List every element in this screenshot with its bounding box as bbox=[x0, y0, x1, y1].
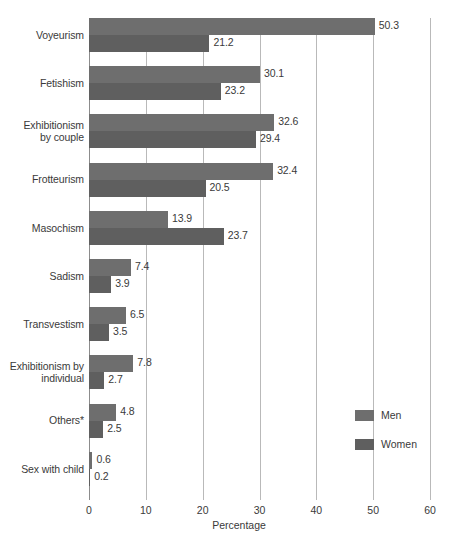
bar-men bbox=[89, 114, 274, 131]
bar-value-label: 23.2 bbox=[225, 82, 245, 99]
bar-women bbox=[89, 180, 206, 197]
category-label: Sadism bbox=[0, 270, 84, 283]
bar-men bbox=[89, 355, 133, 372]
legend-swatch bbox=[355, 410, 374, 421]
bar-value-label: 3.5 bbox=[113, 323, 127, 340]
bar-women bbox=[89, 35, 209, 52]
bar-men bbox=[89, 163, 273, 180]
bar-group: 30.123.2 bbox=[89, 66, 430, 100]
bar-women bbox=[89, 469, 90, 486]
bar-value-label: 2.5 bbox=[107, 420, 121, 437]
x-tick-60: 60 bbox=[424, 504, 436, 516]
category-label-line: individual bbox=[0, 372, 84, 385]
bar-value-label: 32.6 bbox=[278, 113, 298, 130]
category-label: Sex with child bbox=[0, 463, 84, 476]
x-tick-10: 10 bbox=[140, 504, 152, 516]
bar-women bbox=[89, 372, 104, 389]
bar-men bbox=[89, 211, 168, 228]
category-label-line: Exhibitionism bbox=[0, 119, 84, 132]
bar-chart: VoyeurismFetishismExhibitionismby couple… bbox=[0, 0, 450, 547]
bar-women bbox=[89, 228, 224, 245]
legend-item-men: Men bbox=[355, 408, 417, 422]
bar-value-label: 20.5 bbox=[210, 179, 230, 196]
bar-group: 13.923.7 bbox=[89, 211, 430, 245]
bar-value-label: 2.7 bbox=[108, 371, 122, 388]
x-axis-title-text: Percentage bbox=[212, 519, 266, 531]
category-label: Exhibitionismby couple bbox=[0, 119, 84, 144]
bar-women bbox=[89, 324, 109, 341]
legend-item-women: Women bbox=[355, 437, 417, 451]
bar-men bbox=[89, 404, 116, 421]
bar-value-label: 4.8 bbox=[120, 403, 134, 420]
x-tick-20: 20 bbox=[197, 504, 209, 516]
bar-men bbox=[89, 66, 260, 83]
bar-value-label: 29.4 bbox=[260, 130, 280, 147]
bar-men bbox=[89, 18, 375, 35]
bar-group: 50.321.2 bbox=[89, 18, 430, 52]
bar-value-label: 7.8 bbox=[137, 354, 151, 371]
bar-group: 7.82.7 bbox=[89, 355, 430, 389]
bar-group: 6.53.5 bbox=[89, 307, 430, 341]
legend-swatch bbox=[355, 439, 374, 450]
category-label-line: Frotteurism bbox=[0, 173, 84, 186]
category-label-line: Fetishism bbox=[0, 77, 84, 90]
bar-women bbox=[89, 131, 256, 148]
bar-value-label: 13.9 bbox=[172, 210, 192, 227]
legend-label: Men bbox=[381, 409, 401, 421]
bar-value-label: 0.2 bbox=[94, 468, 108, 485]
x-tick-50: 50 bbox=[367, 504, 379, 516]
bar-value-label: 50.3 bbox=[379, 17, 399, 34]
bar-men bbox=[89, 452, 92, 469]
x-tick-30: 30 bbox=[254, 504, 266, 516]
bar-value-label: 23.7 bbox=[228, 227, 248, 244]
bar-women bbox=[89, 83, 221, 100]
bar-women bbox=[89, 276, 111, 293]
bar-value-label: 0.6 bbox=[96, 451, 110, 468]
category-label-line: by couple bbox=[0, 131, 84, 144]
bar-value-label: 30.1 bbox=[264, 65, 284, 82]
category-label-line: Exhibitionism by bbox=[0, 360, 84, 373]
category-label: Voyeurism bbox=[0, 29, 84, 42]
bar-group: 32.420.5 bbox=[89, 163, 430, 197]
bar-value-label: 21.2 bbox=[213, 34, 233, 51]
category-axis-labels: VoyeurismFetishismExhibitionismby couple… bbox=[0, 18, 84, 500]
bar-men bbox=[89, 259, 131, 276]
x-tick-40: 40 bbox=[310, 504, 322, 516]
x-tick-0: 0 bbox=[86, 504, 92, 516]
bar-value-label: 32.4 bbox=[277, 162, 297, 179]
category-label-line: Sadism bbox=[0, 270, 84, 283]
gridline-60 bbox=[430, 18, 431, 500]
category-label-line: Transvestism bbox=[0, 318, 84, 331]
bar-group: 7.43.9 bbox=[89, 259, 430, 293]
category-label: Fetishism bbox=[0, 77, 84, 90]
bar-men bbox=[89, 307, 126, 324]
legend: MenWomen bbox=[355, 408, 417, 466]
category-label: Exhibitionism byindividual bbox=[0, 360, 84, 385]
bar-women bbox=[89, 421, 103, 438]
x-axis-title: Percentage bbox=[0, 519, 450, 531]
legend-label: Women bbox=[381, 438, 417, 450]
category-label-line: Sex with child bbox=[0, 463, 84, 476]
bar-value-label: 6.5 bbox=[130, 306, 144, 323]
category-label-line: Others* bbox=[0, 414, 84, 427]
bar-value-label: 7.4 bbox=[135, 258, 149, 275]
bar-group: 32.629.4 bbox=[89, 114, 430, 148]
category-label-line: Voyeurism bbox=[0, 29, 84, 42]
category-label: Masochism bbox=[0, 222, 84, 235]
category-label: Others* bbox=[0, 414, 84, 427]
category-label-line: Masochism bbox=[0, 222, 84, 235]
bar-value-label: 3.9 bbox=[115, 275, 129, 292]
category-label: Frotteurism bbox=[0, 173, 84, 186]
category-label: Transvestism bbox=[0, 318, 84, 331]
